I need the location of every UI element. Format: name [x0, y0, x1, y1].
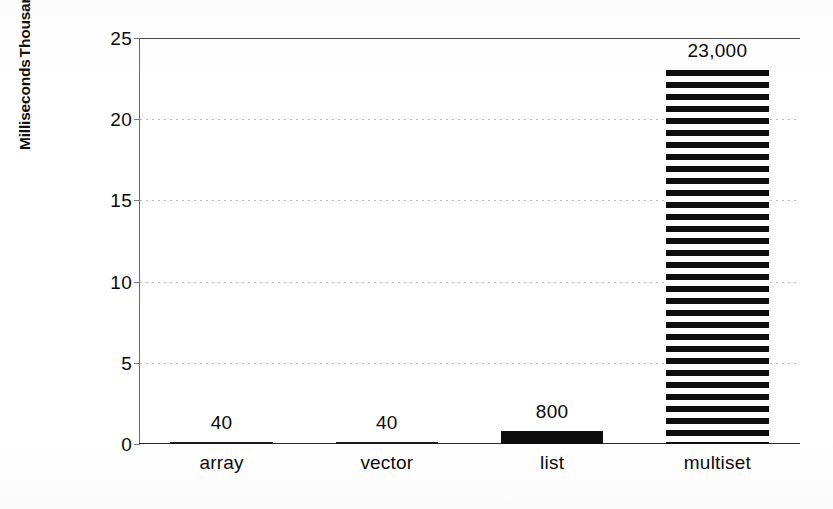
y-axis-tick-label: 5: [121, 353, 132, 372]
x-axis-category-labels: arrayvectorlistmultiset: [139, 452, 800, 486]
y-axis-tickmark: [134, 119, 140, 120]
plot-border-top: [139, 38, 800, 39]
bar: [336, 442, 438, 445]
plot-border-left: [139, 38, 140, 444]
x-axis-category-label: vector: [360, 452, 413, 474]
bar-value-label: 800: [536, 402, 569, 421]
y-axis-title-line-2: Thousands: [16, 0, 34, 57]
y-axis-tickmark: [134, 38, 140, 39]
bar-value-label: 23,000: [687, 41, 747, 60]
x-axis-category-label: multiset: [684, 452, 751, 474]
y-axis-title: Milliseconds Thousands: [16, 0, 56, 150]
bar: [170, 442, 272, 445]
bar-value-label: 40: [211, 413, 233, 432]
y-axis-tick-label: 20: [110, 110, 132, 129]
y-axis-tickmark: [134, 282, 140, 283]
bar: [501, 431, 603, 444]
y-axis-tick-label: 0: [121, 435, 132, 454]
x-axis-category-label: array: [199, 452, 243, 474]
y-axis-tickmark: [134, 444, 140, 445]
y-axis-tickmark: [134, 200, 140, 201]
bar-value-label: 40: [376, 413, 398, 432]
y-axis-tick-label: 15: [110, 191, 132, 210]
y-axis-title-line-1: Milliseconds: [16, 59, 34, 150]
bar-chart: Milliseconds Thousands 0510152025 404080…: [0, 0, 833, 509]
plot-area: 404080023,000: [139, 38, 800, 444]
x-axis-category-label: list: [540, 452, 564, 474]
y-axis-tick-label: 25: [110, 29, 132, 48]
y-axis-tick-labels: 0510152025: [86, 0, 132, 509]
bar: [666, 70, 768, 444]
y-axis-tick-label: 10: [110, 272, 132, 291]
y-axis-tickmark: [134, 363, 140, 364]
